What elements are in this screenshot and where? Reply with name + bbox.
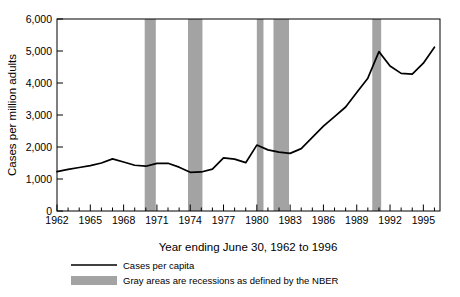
- y-axis-title: Cases per million adults: [6, 54, 18, 176]
- x-axis-tick-label: 1968: [112, 214, 136, 226]
- plot-frame: [57, 19, 440, 211]
- x-axis-tick-label: 1989: [345, 214, 369, 226]
- x-axis-tick-label: 1965: [79, 214, 103, 226]
- recession-band: [372, 19, 381, 211]
- recession-band: [145, 19, 156, 211]
- x-axis-tick-label: 1983: [278, 214, 302, 226]
- legend-label-recessions: Gray areas are recessions as defined by …: [123, 275, 339, 286]
- x-axis-tick-labels: 1962196519681971197419771980198319861989…: [45, 214, 435, 226]
- y-axis-tick-label: 4,000: [26, 77, 52, 89]
- recession-bands: [145, 19, 381, 211]
- x-axis-tick-label: 1974: [179, 214, 203, 226]
- legend: Cases per capita Gray areas are recessio…: [71, 260, 339, 286]
- y-axis-tick-label: 6,000: [26, 13, 52, 25]
- legend-label-cases-per-capita: Cases per capita: [123, 260, 195, 271]
- y-axis-tick-label: 5,000: [26, 45, 52, 57]
- x-axis-tick-label: 1992: [378, 214, 402, 226]
- x-axis-tick-label: 1962: [45, 214, 69, 226]
- chart-container: 01,0002,0003,0004,0005,0006,000 19621965…: [0, 0, 460, 297]
- legend-swatch-marker: [71, 276, 117, 285]
- line-chart: 01,0002,0003,0004,0005,0006,000 19621965…: [0, 0, 460, 297]
- x-axis-tick-label: 1995: [412, 214, 436, 226]
- x-axis-tick-label: 1980: [245, 214, 269, 226]
- y-axis-tick-label: 2,000: [26, 141, 52, 153]
- y-axis-ticks: [57, 19, 63, 211]
- y-axis-tick-labels: 01,0002,0003,0004,0005,0006,000: [26, 13, 52, 217]
- x-axis-tick-label: 1977: [212, 214, 236, 226]
- recession-band: [188, 19, 202, 211]
- y-axis-tick-label: 3,000: [26, 109, 52, 121]
- recession-band: [273, 19, 289, 211]
- y-axis-tick-label: 1,000: [26, 173, 52, 185]
- recession-band: [257, 19, 264, 211]
- x-axis-tick-label: 1971: [145, 214, 169, 226]
- x-axis-title: Year ending June 30, 1962 to 1996: [159, 241, 338, 253]
- x-axis-tick-label: 1986: [312, 214, 336, 226]
